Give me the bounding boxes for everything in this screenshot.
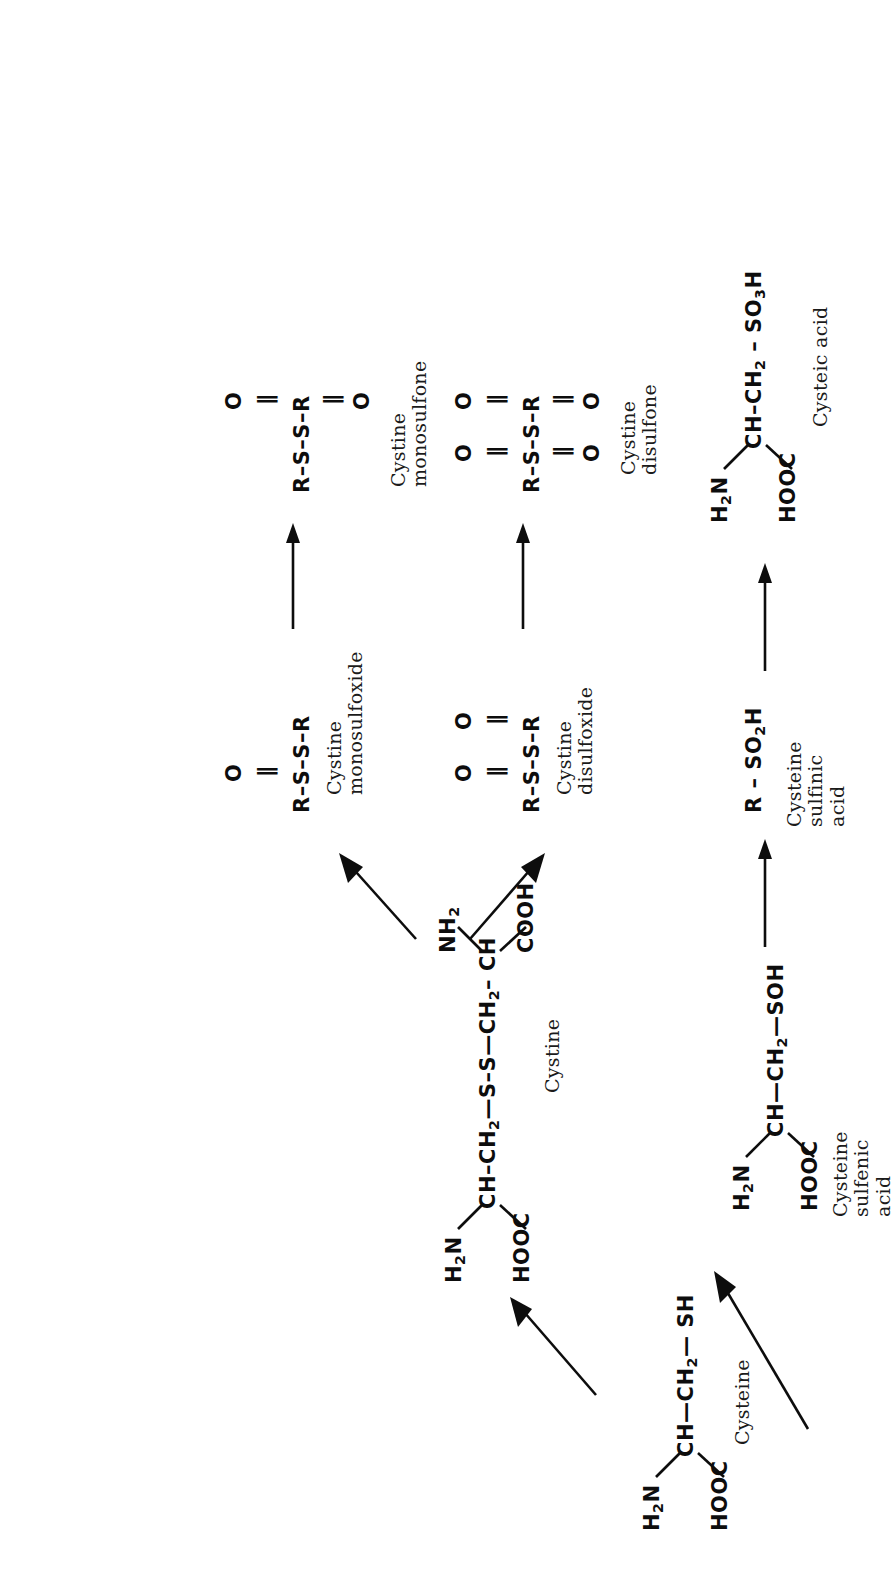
disulfoxide-oxygen-2: O: [452, 712, 476, 730]
disulfoxide-bond-1: ∥: [484, 766, 508, 777]
monosulfoxide-backbone: R–S–S–R: [290, 715, 314, 813]
disulfone-oxygen-3: O: [580, 444, 604, 462]
cystine-disulfone-label: Cystine disulfone: [618, 384, 661, 475]
cystine-bond-lines-left: [444, 1155, 554, 1235]
arrow-cystine-to-disulfoxide: [452, 833, 547, 943]
arrow-cysteine-to-sulfenic: [700, 1243, 820, 1433]
disulfoxide-oxygen-1: O: [452, 764, 476, 782]
monosulfone-bond-bottom: ∥: [320, 394, 344, 405]
disulfoxide-backbone: R–S–S–R: [520, 715, 544, 813]
cystine-amine-left: H2N: [442, 1236, 468, 1283]
disulfone-backbone: R–S–S–R: [520, 395, 544, 493]
cystine-monosulfoxide-label: Cystine monosulfoxide: [324, 651, 367, 795]
sulfenic-bond-lines: [732, 1083, 842, 1163]
disulfone-oxygen-2: O: [452, 392, 476, 410]
cystine-disulfoxide-label: Cystine disulfoxide: [554, 687, 597, 795]
cysteine-sulfenic-acid-label: Cysteine sulfenic acid: [830, 1131, 894, 1217]
cysteic-amine: H2N: [708, 476, 734, 523]
cysteic-bond-lines: [710, 395, 820, 475]
monosulfone-backbone: R–S–S–R: [290, 395, 314, 493]
disulfone-bond-2: ∥: [484, 394, 508, 405]
disulfone-bond-3: ∥: [550, 446, 574, 457]
arrow-sulfenic-to-sulfinic: [754, 829, 778, 949]
disulfone-oxygen-1: O: [452, 444, 476, 462]
arrow-disulfoxide-to-disulfone: [512, 511, 536, 631]
disulfone-bond-1: ∥: [484, 446, 508, 457]
monosulfoxide-double-bond: ∥: [254, 766, 278, 777]
arrow-monosulfoxide-to-monosulfone: [282, 511, 306, 631]
monosulfone-oxygen-bottom: O: [350, 392, 374, 410]
monosulfone-oxygen-top: O: [222, 392, 246, 410]
cystine-monosulfone-label: Cystine monosulfone: [388, 361, 431, 487]
arrow-cysteine-to-cystine: [500, 1271, 610, 1401]
disulfone-oxygen-4: O: [580, 392, 604, 410]
disulfoxide-bond-2: ∥: [484, 714, 508, 725]
cysteic-acid-label: Cysteic acid: [810, 307, 831, 427]
arrow-cystine-to-monosulfoxide: [330, 833, 425, 943]
cysteine-sulfinic-acid-label: Cysteine sulfinic acid: [784, 741, 848, 827]
cysteine-amine: H2N: [640, 1484, 666, 1531]
disulfone-bond-4: ∥: [550, 394, 574, 405]
monosulfone-bond-top: ∥: [254, 394, 278, 405]
monosulfoxide-oxygen: O: [222, 764, 246, 782]
sulfenic-amine: H2N: [730, 1164, 756, 1211]
arrow-sulfinic-to-cysteic: [754, 553, 778, 673]
sulfinic-formula: R – SO2H: [742, 707, 768, 813]
cystine-label: Cystine: [542, 1019, 563, 1093]
